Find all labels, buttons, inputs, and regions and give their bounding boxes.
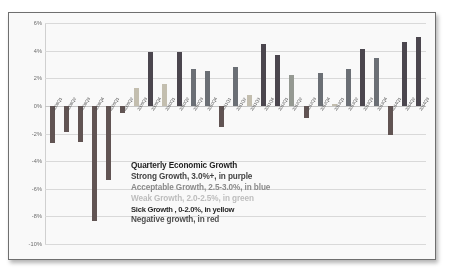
y-axis-tick-label: -10%	[29, 241, 42, 247]
y-axis-tick-label: -2%	[32, 131, 42, 137]
x-axis-tick-label: 2013Q1	[333, 96, 345, 111]
bar-2011Q4	[261, 44, 266, 106]
y-axis-tick-label: -6%	[32, 186, 42, 192]
chart-legend: Quarterly Economic Growth Strong Growth,…	[131, 161, 356, 226]
gridline	[45, 244, 426, 245]
bar-2012Q1	[275, 55, 280, 106]
x-axis-tick-label: 2009Q2	[122, 96, 134, 111]
bar-2013Q4	[374, 58, 379, 106]
gridline	[45, 51, 426, 52]
gridline	[45, 134, 426, 135]
y-axis-tick-label: 2%	[34, 75, 42, 81]
x-axis-tick-label: 2008Q4	[93, 96, 105, 111]
bar-2008Q1	[50, 106, 55, 143]
chart-frame: 6%4%2%0%-2%-4%-6%-8%-10% 2008Q12008Q2200…	[8, 12, 436, 260]
legend-item-purple: Strong Growth, 3.0%+, in purple	[131, 172, 356, 183]
bar-2013Q3	[360, 49, 365, 106]
legend-item-yellow: Sick Growth , 0-2.0%, in yellow	[131, 205, 356, 215]
y-axis-tick-label: 6%	[34, 20, 42, 26]
bar-2010Q2	[177, 52, 182, 106]
bar-2014Q3	[416, 37, 421, 106]
bar-2011Q2	[233, 67, 238, 106]
x-axis-tick-label: 2009Q1	[108, 96, 120, 111]
bar-2014Q2	[402, 42, 407, 106]
x-axis-tick-label: 2008Q1	[51, 96, 63, 111]
bar-2010Q3	[191, 69, 196, 106]
y-axis-labels: 6%4%2%0%-2%-4%-6%-8%-10%	[9, 23, 42, 244]
bar-2010Q4	[205, 71, 210, 106]
legend-title: Quarterly Economic Growth	[131, 161, 356, 172]
y-axis-tick-label: 0%	[34, 103, 42, 109]
bar-2009Q4	[148, 52, 153, 106]
x-axis-tick-label: 2008Q2	[65, 96, 77, 111]
y-axis-tick-label: -8%	[32, 213, 42, 219]
legend-item-blue: Acceptable Growth, 2.5-3.0%, in blue	[131, 183, 356, 194]
bar-2008Q4	[92, 106, 97, 221]
x-axis-tick-label: 2014Q1	[390, 96, 402, 111]
bar-2012Q4	[318, 73, 323, 106]
bar-2009Q1	[106, 106, 111, 181]
x-axis-tick-label: 2012Q3	[305, 96, 317, 111]
y-axis-tick-label: -4%	[32, 158, 42, 164]
y-axis-tick-label: 4%	[34, 48, 42, 54]
bar-2013Q2	[346, 69, 351, 106]
x-axis-tick-label: 2011Q1	[220, 96, 232, 111]
legend-item-green: Weak Growth, 2.0-2.5%, in green	[131, 194, 356, 205]
x-axis-tick-label: 2008Q3	[79, 96, 91, 111]
gridline	[45, 23, 426, 24]
bar-2012Q2	[289, 75, 294, 105]
legend-item-red: Negative growth, in red	[131, 215, 356, 226]
